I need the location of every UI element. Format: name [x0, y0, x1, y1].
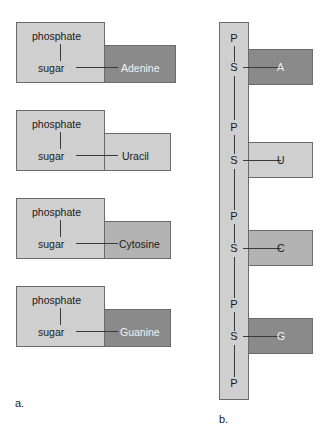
phosphate-label-1: phosphate: [32, 31, 81, 42]
sugar-label-1: sugar: [38, 63, 64, 74]
backbone-connector-1b: [234, 76, 235, 120]
sugar-base-connector-4: [76, 331, 118, 332]
backbone-connector-4a: [234, 312, 235, 331]
base-label-uracil: Uracil: [122, 151, 149, 162]
phosphate-label-2: phosphate: [32, 119, 81, 130]
base-label-guanine: Guanine: [120, 327, 160, 338]
backbone-connector-2b: [234, 169, 235, 210]
base-letter-c: C: [277, 243, 285, 254]
phosphate-sugar-connector-4: [60, 308, 61, 325]
phosphate-label-3: phosphate: [32, 207, 81, 218]
phosphate-letter-1: P: [219, 33, 249, 44]
backbone-connector-3b: [234, 257, 235, 298]
sugar-base-connector-1: [76, 67, 118, 68]
backbone-connector-1a: [234, 46, 235, 62]
phosphate-letter-4: P: [219, 299, 249, 310]
base-letter-u: U: [277, 155, 285, 166]
phosphate-letter-2: P: [219, 122, 249, 133]
base-letter-g: G: [277, 331, 285, 342]
backbone-connector-4b: [234, 345, 235, 377]
sugar-base-connector-b3: [243, 248, 281, 249]
phosphate-sugar-connector-2: [60, 132, 61, 149]
sugar-base-connector-b4: [243, 336, 281, 337]
phosphate-letter-3: P: [219, 211, 249, 222]
panel-b-label: b.: [219, 414, 228, 425]
sugar-base-connector-2: [76, 155, 118, 156]
sugar-base-connector-3: [76, 243, 118, 244]
sugar-label-3: sugar: [38, 239, 64, 250]
base-letter-a: A: [277, 62, 284, 73]
phosphate-label-4: phosphate: [32, 295, 81, 306]
terminal-phosphate-letter: P: [219, 378, 249, 389]
phosphate-sugar-connector-1: [60, 44, 61, 61]
base-label-adenine: Adenine: [121, 63, 160, 74]
panel-a-label: a.: [15, 398, 24, 409]
sugar-base-connector-b1: [243, 67, 281, 68]
base-label-cytosine: Cytosine: [119, 239, 160, 250]
sugar-label-2: sugar: [38, 151, 64, 162]
rna-nucleotide-figure: phosphate sugar Adenine phosphate sugar …: [0, 0, 330, 429]
sugar-base-connector-b2: [243, 160, 281, 161]
sugar-label-4: sugar: [38, 327, 64, 338]
backbone-connector-2a: [234, 135, 235, 154]
backbone-connector-3a: [234, 224, 235, 243]
phosphate-sugar-connector-3: [60, 220, 61, 237]
